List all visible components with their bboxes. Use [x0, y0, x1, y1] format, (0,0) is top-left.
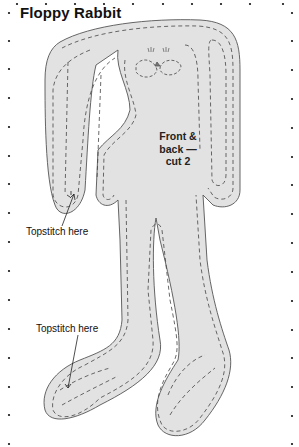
topstitch-foot-label: Topstitch here: [36, 323, 98, 334]
pattern-title: Floppy Rabbit: [20, 4, 121, 21]
topstitch-ear-label: Topstitch here: [26, 226, 88, 237]
topstitch-arrows: [62, 191, 78, 388]
cut-instruction: Front & back — cut 2: [148, 130, 208, 168]
cut-instruction-line-1: Front &: [148, 130, 208, 143]
cut-instruction-line-3: cut 2: [148, 155, 208, 168]
rabbit-pattern-drawing: [0, 0, 299, 447]
cut-instruction-line-2: back —: [148, 143, 208, 156]
